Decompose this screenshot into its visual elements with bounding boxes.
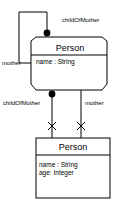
self-association-filled-dot [44, 30, 51, 37]
role-label-childofmother-top: childOfMother [62, 17, 99, 24]
association-child-line[interactable] [48, 92, 56, 138]
role-label-mother-bottom: mother [85, 100, 104, 107]
person-top-attribute: name : String [36, 58, 75, 66]
association-child-filled-dot [49, 91, 56, 98]
association-mother-line[interactable] [77, 90, 85, 138]
person-bottom-attribute-name: name : String [39, 161, 78, 169]
uml-class-diagram: childOfMother mother childOfMother mothe… [0, 0, 115, 204]
person-bottom-class-name: Person [36, 142, 110, 152]
role-label-childofmother-bottom: childOfMother [3, 100, 40, 107]
role-label-mother-left: mother [2, 60, 21, 67]
person-top-class-name: Person [30, 43, 110, 53]
person-bottom-attribute-age: age: Integer [39, 169, 74, 177]
